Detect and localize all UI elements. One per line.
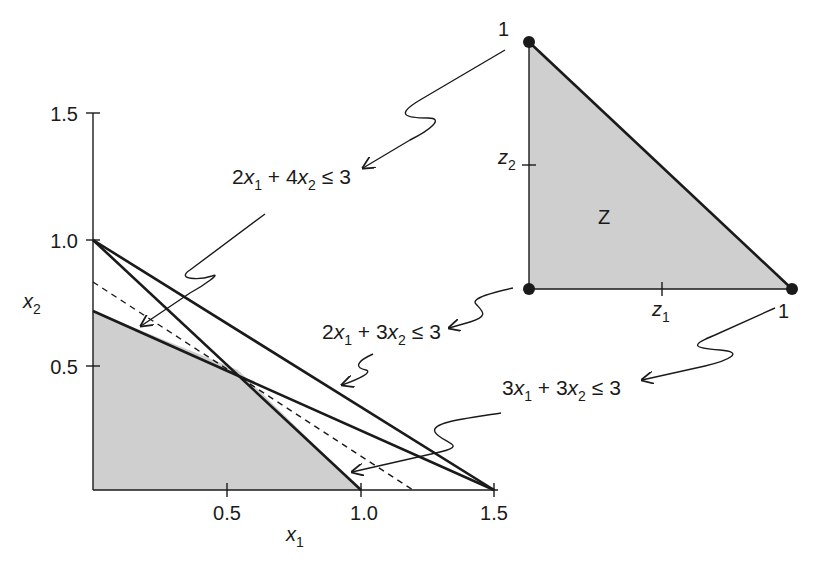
constraint-label-3x1-3x2: 3x1 + 3x2 ≤ 3	[502, 376, 621, 404]
x-tick-label-1-0: 1.0	[350, 502, 378, 524]
y-axis-label: x2	[22, 290, 41, 317]
constraint-label-2x1-3x2: 2x1 + 3x2 ≤ 3	[322, 320, 441, 348]
vertex-top-label: 1	[498, 18, 509, 40]
vertex-right	[786, 283, 798, 295]
y-tick-label-0-5: 0.5	[50, 356, 78, 378]
vertex-right-label: 1	[778, 300, 789, 322]
feasible-region	[93, 311, 361, 490]
vertex-top	[523, 36, 535, 48]
diagram-canvas: 1.5 1.0 0.5 0.5 1.0 1.5 x1 x2 Z z2 z1 1 …	[0, 0, 816, 562]
connector-origin-to-c2	[449, 288, 513, 328]
connector-c2-to-line	[342, 354, 373, 385]
z2-label: z2	[497, 146, 516, 173]
connector-c3-to-line	[352, 413, 501, 472]
constraint-label-2x1-4x2: 2x1 + 4x2 ≤ 3	[232, 165, 351, 193]
vertex-origin	[523, 283, 535, 295]
y-tick-label-1-5: 1.5	[50, 103, 78, 125]
z1-label: z1	[651, 298, 670, 325]
x-axis-label: x1	[285, 523, 304, 550]
connector-vertex-top-to-c1	[363, 50, 505, 168]
simplex-label-z: Z	[598, 206, 610, 228]
y-tick-label-1-0: 1.0	[50, 230, 78, 252]
simplex-inset: Z z2 z1 1 1	[497, 18, 798, 325]
x-tick-label-0-5: 0.5	[213, 502, 241, 524]
x-tick-label-1-5: 1.5	[480, 502, 508, 524]
